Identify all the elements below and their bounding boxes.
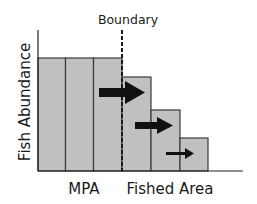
bar-mpa-2	[66, 58, 94, 171]
spillover-diagram: Boundary Fish Abundance MPA Fished Area	[0, 0, 257, 204]
bar-mpa-3	[94, 58, 123, 171]
x-label-fished-area: Fished Area	[126, 180, 213, 198]
x-label-mpa: MPA	[68, 180, 100, 198]
boundary-label: Boundary	[98, 12, 159, 27]
y-axis-label: Fish Abundance	[16, 43, 34, 161]
bar-fished-2	[151, 110, 180, 171]
bar-mpa-1	[38, 58, 66, 171]
